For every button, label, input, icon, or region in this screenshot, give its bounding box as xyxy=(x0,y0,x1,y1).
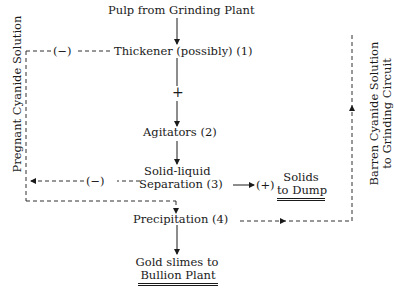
label-barren-solution-line2: to Grinding Circuit xyxy=(381,39,394,189)
node-separation-line2: Separation (3) xyxy=(139,178,223,191)
label-pregnant-solution: Pregnant Cyanide Solution xyxy=(11,23,24,173)
sign-solids-positive: (+) xyxy=(256,179,275,192)
arrowhead-up xyxy=(349,105,355,111)
node-precipitation: Precipitation (4) xyxy=(133,213,228,226)
node-agitators: Agitators (2) xyxy=(143,126,217,139)
node-solids-line2: to Dump xyxy=(277,184,325,201)
sign-thickener-negative: (−) xyxy=(53,45,72,58)
sign-separation-negative: (−) xyxy=(86,175,105,188)
arrowhead-left xyxy=(30,178,36,184)
sign-main-plus: + xyxy=(172,86,184,99)
node-gold-line2: Bullion Plant xyxy=(138,269,218,286)
node-thickener: Thickener (possibly) (1) xyxy=(114,45,253,58)
node-pulp-source: Pulp from Grinding Plant xyxy=(108,4,255,17)
arrowhead-right xyxy=(280,218,286,224)
